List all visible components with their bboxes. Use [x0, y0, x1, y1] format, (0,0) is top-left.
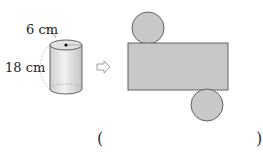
radius-label: 6 cm — [26, 22, 58, 37]
answer-open-paren: ( — [97, 129, 103, 148]
net-top-circle — [132, 12, 164, 44]
right-arrow-icon — [97, 61, 110, 73]
answer-close-paren: ) — [256, 129, 262, 148]
answer-blank[interactable] — [108, 130, 253, 150]
net-bottom-circle — [191, 89, 223, 121]
center-dot — [64, 43, 67, 46]
cylinder — [50, 40, 82, 94]
cylinder-net — [128, 12, 228, 121]
height-label: 18 cm — [5, 60, 45, 75]
net-rectangle — [128, 43, 228, 90]
